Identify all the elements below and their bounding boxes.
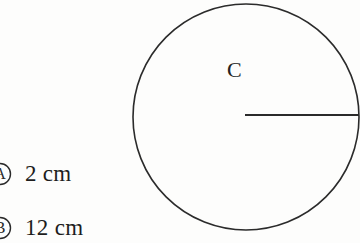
- choice-marker-a: A: [0, 162, 12, 186]
- circle-figure: [0, 0, 360, 243]
- choice-text-a: 2 cm: [25, 161, 72, 187]
- center-point-label: C: [227, 58, 242, 82]
- choice-text-b: 12 cm: [25, 215, 83, 241]
- answer-choice-a[interactable]: A 2 cm: [0, 160, 72, 188]
- choice-letter-a: A: [0, 162, 12, 186]
- circle-outline: [133, 4, 359, 230]
- diagram-page: C A 2 cm B 12 cm: [0, 0, 360, 243]
- answer-choice-b[interactable]: B 12 cm: [0, 214, 83, 242]
- choice-marker-b: B: [0, 216, 12, 240]
- choice-letter-b: B: [0, 216, 12, 240]
